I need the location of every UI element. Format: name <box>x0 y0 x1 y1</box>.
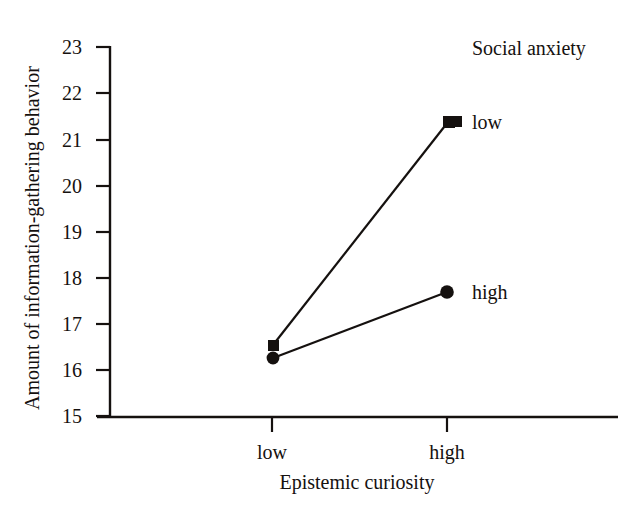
series-line-low <box>273 122 448 345</box>
circle-marker-icon <box>440 285 454 299</box>
legend-square-marker-icon <box>451 116 462 127</box>
legend-label-low: low <box>472 112 502 132</box>
series-line-high <box>273 292 447 358</box>
square-marker-icon <box>268 340 279 351</box>
x-tick-label-low: low <box>257 442 287 462</box>
plot-canvas <box>0 0 644 515</box>
y-tick-label: 23 <box>36 37 82 57</box>
x-tick-label-high: high <box>429 442 465 462</box>
x-axis-title: Epistemic curiosity <box>280 472 435 492</box>
chart-figure: 23 22 21 20 19 18 17 16 15 low high Epis… <box>0 0 644 515</box>
legend-label-high: high <box>472 282 508 302</box>
x-tick-marks <box>272 417 447 432</box>
y-axis-title: Amount of information-gathering behavior <box>22 66 42 410</box>
legend-title: Social anxiety <box>472 38 586 58</box>
y-tick-marks <box>96 47 110 416</box>
circle-marker-icon <box>267 352 280 365</box>
